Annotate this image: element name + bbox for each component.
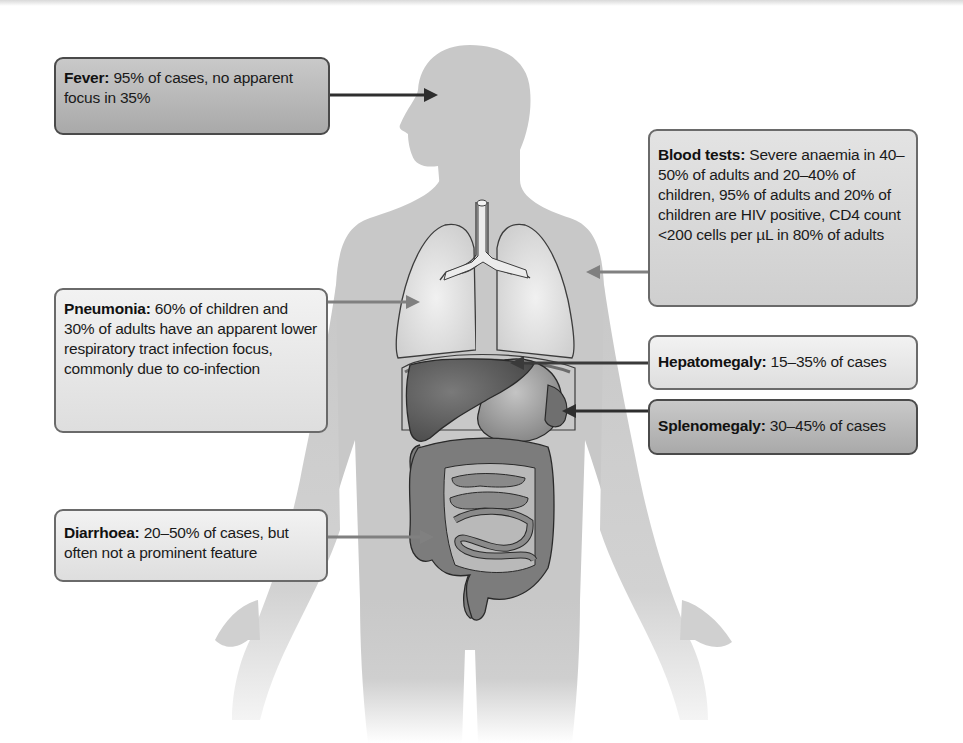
diarrhoea-title: Diarrhoea: — [64, 524, 140, 541]
blood-tests-callout: Blood tests: Severe anaemia in 40–50% of… — [648, 129, 918, 307]
splenomegaly-callout: Splenomegaly: 30–45% of cases — [648, 399, 918, 455]
hepatomegaly-title: Hepatomegaly: — [658, 353, 767, 370]
hepatomegaly-text: 15–35% of cases — [767, 353, 887, 370]
fever-title: Fever: — [64, 69, 109, 86]
splenomegaly-text: 30–45% of cases — [766, 417, 886, 434]
diarrhoea-callout: Diarrhoea: 20–50% of cases, but often no… — [54, 509, 328, 582]
splenomegaly-title: Splenomegaly: — [658, 417, 766, 434]
hepatomegaly-callout: Hepatomegaly: 15–35% of cases — [648, 335, 918, 390]
left-hand — [215, 600, 260, 647]
blood-tests-title: Blood tests: — [658, 146, 745, 163]
pneumonia-title: Pneumonia: — [64, 300, 151, 317]
head — [400, 45, 531, 190]
fever-callout: Fever: 95% of cases, no apparent focus i… — [54, 57, 330, 135]
pneumonia-callout: Pneumonia: 60% of children and 30% of ad… — [54, 288, 328, 433]
